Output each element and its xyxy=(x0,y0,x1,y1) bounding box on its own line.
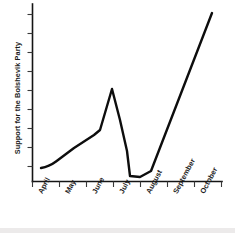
chart-plot-area xyxy=(0,0,235,233)
x-axis-ticks xyxy=(33,182,222,188)
bottom-edge-strip xyxy=(0,228,235,233)
series-line-support xyxy=(41,13,212,177)
line-chart: Support for the Bolshevik Party April Ma… xyxy=(0,0,235,233)
y-axis-title-text: Support for the Bolshevik Party xyxy=(13,42,22,155)
y-axis-title: Support for the Bolshevik Party xyxy=(9,38,25,158)
